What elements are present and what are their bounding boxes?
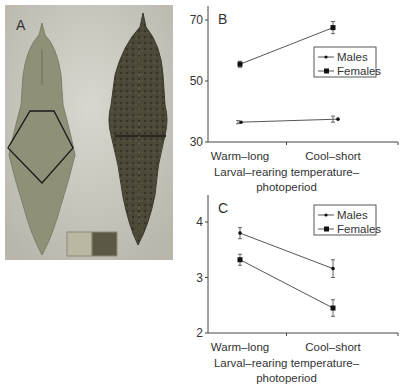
legend-label-females: Females [337, 65, 381, 77]
marker-dot [336, 117, 340, 121]
marker-dot [331, 267, 335, 271]
panel-b-chart: 305070Warm–longCool–shortLarval–rearing … [185, 0, 400, 195]
y-tick-label: 30 [190, 135, 204, 149]
x-axis-title: photoperiod [256, 372, 317, 384]
y-tick-label: 4 [196, 215, 203, 229]
x-category-label: Cool–short [305, 150, 361, 162]
y-tick-label: 2 [196, 326, 203, 340]
y-tick-label: 70 [190, 13, 204, 27]
legend-label-males: Males [337, 209, 368, 221]
pupae-image: A [5, 5, 173, 260]
x-axis-title: Larval–rearing temperature– [214, 357, 360, 369]
swatch-dark [92, 232, 117, 256]
marker-dot [238, 231, 242, 235]
legend-label-females: Females [337, 223, 381, 235]
panel-label: B [218, 11, 227, 27]
marker-square [238, 62, 243, 67]
marker-square [331, 306, 336, 311]
legend-marker-square [324, 69, 329, 74]
panel-c-svg: 234Warm–longCool–shortLarval–rearing tem… [185, 195, 400, 388]
y-tick-label: 3 [196, 271, 203, 285]
swatch-light [67, 232, 92, 256]
marker-square [331, 25, 336, 30]
marker-dot [239, 120, 243, 124]
x-category-label: Warm–long [211, 341, 269, 353]
series-line-males [241, 119, 338, 122]
x-axis-title: photoperiod [256, 181, 317, 193]
panel-label: C [218, 200, 228, 216]
x-category-label: Warm–long [211, 150, 269, 162]
legend-marker-dot [324, 213, 327, 216]
x-axis-title: Larval–rearing temperature– [214, 166, 360, 178]
x-category-label: Cool–short [305, 341, 361, 353]
y-tick-label: 50 [190, 74, 204, 88]
panel-a-photo: A [5, 5, 173, 260]
panel-c-chart: 234Warm–longCool–shortLarval–rearing tem… [185, 195, 400, 388]
legend-marker-dot [324, 55, 327, 58]
panel-a-label: A [16, 17, 26, 33]
panel-b-svg: 305070Warm–longCool–shortLarval–rearing … [185, 0, 400, 195]
series-line-females [240, 260, 333, 308]
marker-square [238, 257, 243, 262]
legend-label-males: Males [337, 51, 368, 63]
legend-marker-square [324, 227, 329, 232]
series-line-males [240, 233, 333, 269]
